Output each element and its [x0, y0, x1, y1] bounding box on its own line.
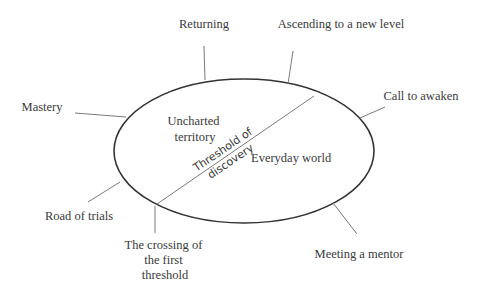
stage-call-to-awaken: Call to awaken [384, 89, 460, 103]
stage-mastery: Mastery [22, 100, 64, 114]
region-everyday-world: Everyday world [251, 151, 332, 165]
stage-returning: Returning [179, 17, 230, 31]
stage-meeting-a-mentor: Meeting a mentor [315, 247, 405, 261]
leader-ascending [288, 51, 293, 84]
leader-road-of-trials [88, 182, 120, 202]
stage-ascending: Ascending to a new level [278, 17, 405, 31]
hero-journey-diagram: Uncharted territory Everyday world Thres… [0, 0, 485, 292]
leader-meeting-mentor [333, 203, 357, 234]
leader-mastery [75, 113, 126, 117]
leader-returning [204, 46, 205, 80]
stage-road-of-trials: Road of trials [45, 209, 113, 223]
region-uncharted-territory: Uncharted territory [167, 114, 222, 144]
leader-call-to-awaken [360, 107, 385, 118]
stage-crossing-first-threshold: The crossing of the first threshold [125, 238, 206, 282]
